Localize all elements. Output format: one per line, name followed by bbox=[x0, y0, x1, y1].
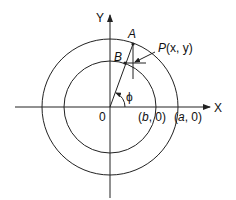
inner-intercept-label: (b, 0) bbox=[138, 110, 166, 124]
point-P-label: P(x, y) bbox=[158, 41, 193, 55]
angle-phi-label: ϕ bbox=[126, 90, 133, 104]
point-P-coords: (x, y) bbox=[166, 41, 193, 55]
y-axis-label: Y bbox=[96, 11, 104, 25]
point-B bbox=[123, 61, 126, 64]
point-P-name: P bbox=[158, 41, 166, 55]
origin-label: 0 bbox=[99, 110, 106, 124]
x-axis-label: X bbox=[214, 101, 222, 115]
point-A-label: A bbox=[127, 27, 136, 41]
ellipse-construction-diagram: Y X 0 A B P(x, y) ϕ (b, 0) (a, 0) bbox=[0, 0, 236, 200]
inner-intercept-suffix: , 0) bbox=[149, 110, 166, 124]
point-B-label: B bbox=[114, 50, 122, 64]
outer-intercept-label: (a, 0) bbox=[174, 110, 202, 124]
angle-phi-arc bbox=[116, 93, 125, 107]
p-pointer-arrow bbox=[135, 52, 155, 62]
outer-intercept-suffix: , 0) bbox=[185, 110, 202, 124]
point-A bbox=[131, 42, 134, 45]
